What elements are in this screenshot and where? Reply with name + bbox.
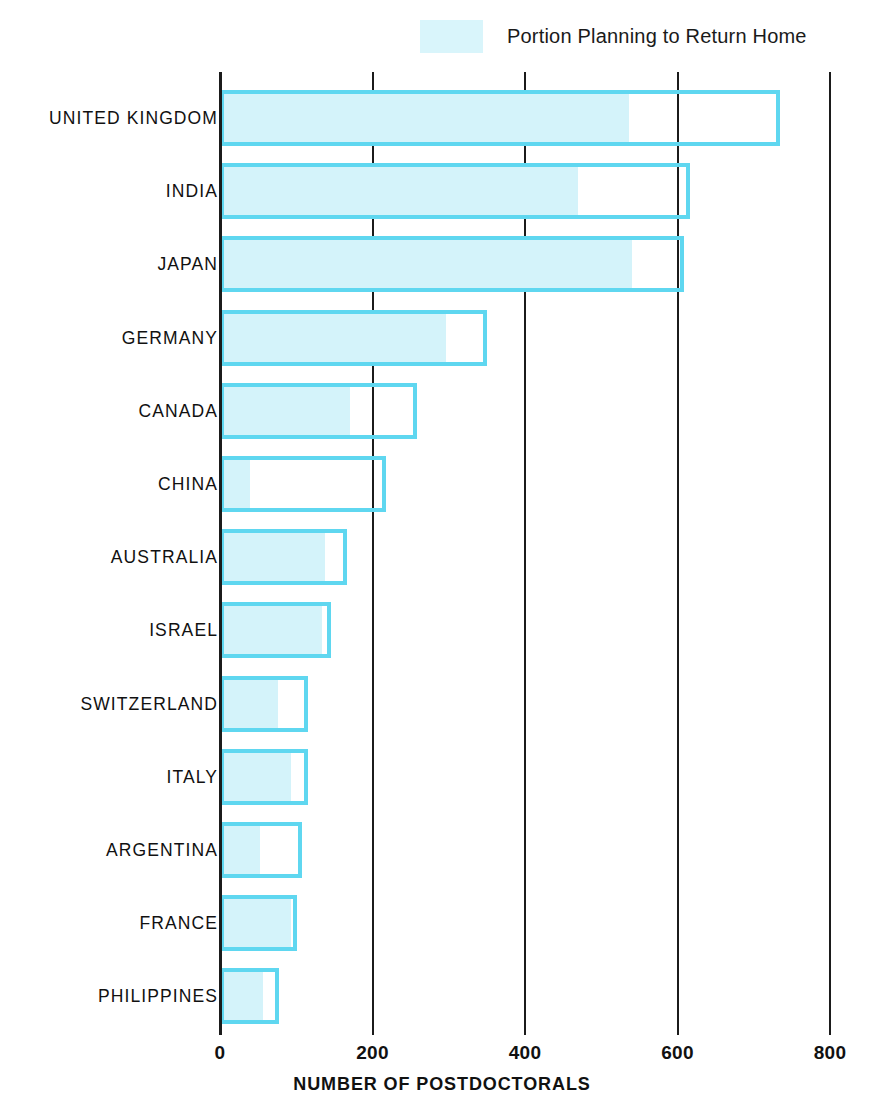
plot-area: UNITED KINGDOMINDIAJAPANGERMANYCANADACHI… bbox=[0, 0, 884, 1108]
bar-row: FRANCE bbox=[0, 895, 884, 951]
x-tick-label: 600 bbox=[661, 1042, 694, 1064]
bar-row: CHINA bbox=[0, 456, 884, 512]
bar-row: JAPAN bbox=[0, 236, 884, 292]
bar-row: PHILIPPINES bbox=[0, 968, 884, 1024]
bar-total-outline bbox=[220, 236, 684, 292]
bar-total-outline bbox=[220, 456, 386, 512]
bar-total-outline bbox=[220, 90, 780, 146]
category-label: JAPAN bbox=[157, 236, 218, 292]
category-label: UNITED KINGDOM bbox=[49, 90, 218, 146]
x-tick-label: 0 bbox=[215, 1042, 226, 1064]
bar-row: CANADA bbox=[0, 383, 884, 439]
bar-total-outline bbox=[220, 529, 347, 585]
bar-row: SWITZERLAND bbox=[0, 676, 884, 732]
bar-total-outline bbox=[220, 968, 279, 1024]
bar-total-outline bbox=[220, 383, 417, 439]
category-label: GERMANY bbox=[122, 310, 218, 366]
category-label: ISRAEL bbox=[149, 602, 218, 658]
category-label: FRANCE bbox=[139, 895, 218, 951]
bar-total-outline bbox=[220, 310, 487, 366]
category-label: SWITZERLAND bbox=[80, 676, 218, 732]
bar-row: AUSTRALIA bbox=[0, 529, 884, 585]
x-tick-label: 200 bbox=[356, 1042, 389, 1064]
bar-row: UNITED KINGDOM bbox=[0, 90, 884, 146]
bar-row: ARGENTINA bbox=[0, 822, 884, 878]
category-label: ITALY bbox=[166, 749, 218, 805]
category-label: PHILIPPINES bbox=[98, 968, 218, 1024]
category-label: ARGENTINA bbox=[106, 822, 218, 878]
bar-total-outline bbox=[220, 602, 331, 658]
category-label: CHINA bbox=[158, 456, 218, 512]
bar-row: ITALY bbox=[0, 749, 884, 805]
category-label: INDIA bbox=[166, 163, 218, 219]
category-label: AUSTRALIA bbox=[111, 529, 218, 585]
category-label: CANADA bbox=[138, 383, 218, 439]
bar-total-outline bbox=[220, 749, 308, 805]
x-axis-title: NUMBER OF POSTDOCTORALS bbox=[0, 1074, 884, 1095]
bar-row: ISRAEL bbox=[0, 602, 884, 658]
bar-row: GERMANY bbox=[0, 310, 884, 366]
bar-total-outline bbox=[220, 163, 690, 219]
chart-container: Portion Planning to Return Home UNITED K… bbox=[0, 0, 884, 1108]
x-tick-label: 800 bbox=[814, 1042, 847, 1064]
bar-total-outline bbox=[220, 822, 302, 878]
bar-row: INDIA bbox=[0, 163, 884, 219]
bar-total-outline bbox=[220, 676, 308, 732]
y-axis-line bbox=[219, 72, 222, 1035]
x-tick-label: 400 bbox=[509, 1042, 542, 1064]
bar-total-outline bbox=[220, 895, 297, 951]
